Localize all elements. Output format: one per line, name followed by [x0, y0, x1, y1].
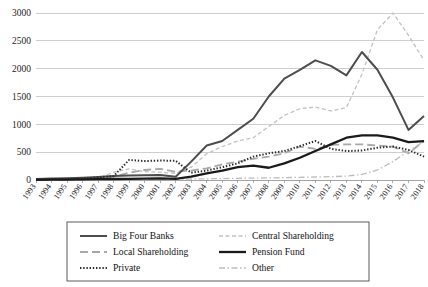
x-tick-2008: 2008 — [254, 182, 271, 201]
chart-container: 050010001500200025003000 199319941995199… — [0, 0, 428, 287]
y-tick-2000: 2000 — [12, 64, 31, 74]
x-tick-1995: 1995 — [52, 182, 69, 201]
legend-label: Other — [252, 262, 275, 273]
x-tick-1994: 1994 — [36, 182, 53, 201]
line-chart: 050010001500200025003000 199319941995199… — [0, 0, 428, 287]
y-tick-2500: 2500 — [12, 36, 31, 46]
x-tick-1996: 1996 — [67, 182, 84, 201]
x-tick-2017: 2017 — [393, 182, 410, 201]
x-axis-tick-labels: 1993199419951996199719981999200020012002… — [21, 182, 426, 201]
chart-legend: Big Four BanksCentral ShareholdingLocal … — [67, 222, 369, 281]
x-tick-2011: 2011 — [300, 182, 317, 200]
legend-label: Local Shareholding — [113, 246, 189, 257]
y-tick-500: 500 — [17, 147, 32, 157]
legend-label: Big Four Banks — [113, 230, 174, 241]
x-tick-2000: 2000 — [130, 182, 147, 201]
legend-label: Central Shareholding — [252, 230, 334, 241]
x-tick-2014: 2014 — [347, 182, 364, 201]
x-tick-2007: 2007 — [238, 182, 255, 201]
legend-label: Private — [113, 262, 140, 273]
x-tick-2001: 2001 — [145, 182, 162, 201]
series-line-big-four-banks — [36, 52, 424, 179]
x-tick-2013: 2013 — [331, 182, 348, 201]
x-tick-2002: 2002 — [161, 182, 178, 201]
x-tick-2015: 2015 — [362, 182, 379, 201]
series-line-other — [36, 142, 424, 180]
x-tick-2009: 2009 — [269, 182, 286, 201]
x-tick-2006: 2006 — [223, 182, 240, 201]
y-axis-tick-labels: 050010001500200025003000 — [12, 8, 31, 185]
x-tick-1999: 1999 — [114, 182, 131, 201]
x-tick-2005: 2005 — [207, 182, 224, 201]
x-tick-1998: 1998 — [98, 182, 115, 201]
x-tick-2018: 2018 — [409, 182, 426, 201]
y-tick-3000: 3000 — [12, 8, 31, 18]
x-tick-2004: 2004 — [192, 182, 209, 201]
gridlines-group — [36, 13, 424, 152]
x-tick-1993: 1993 — [21, 182, 38, 201]
y-tick-1000: 1000 — [12, 120, 31, 130]
x-tick-2012: 2012 — [316, 182, 333, 201]
x-tick-2003: 2003 — [176, 182, 193, 201]
x-tick-2016: 2016 — [378, 182, 395, 201]
x-tick-2010: 2010 — [285, 182, 302, 201]
x-tick-1997: 1997 — [83, 182, 100, 201]
legend-label: Pension Fund — [252, 246, 305, 257]
y-tick-1500: 1500 — [12, 92, 31, 102]
